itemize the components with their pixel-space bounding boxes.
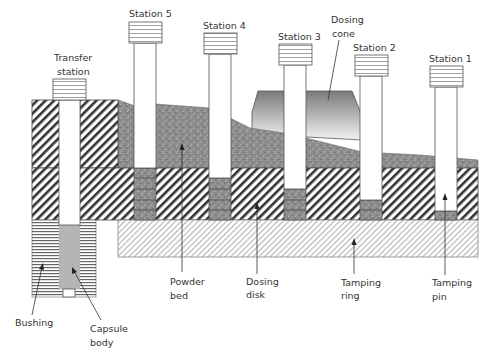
capsule-filling-diagram: Station 5 Station 4 Station 3 Station 2 …	[0, 0, 491, 361]
tamping-pin-label-line2: pin	[432, 291, 447, 302]
dosing-disk	[32, 168, 478, 220]
station-1-label: Station 1	[429, 53, 472, 64]
tamping-pin-station-1	[435, 87, 457, 211]
tamping-ring-label-line1: Tamping	[340, 277, 381, 288]
capsule-body-label-line1: Capsule	[90, 323, 128, 334]
transfer-station-label-line1: Transfer	[53, 52, 92, 63]
cap-station-1	[430, 66, 463, 87]
dosing-cone-label-line2: cone	[332, 28, 355, 39]
tamping-ring-label-line2: ring	[341, 290, 360, 301]
tamping-ring	[118, 220, 478, 257]
capsule-bottom-slot	[63, 289, 75, 297]
transfer-cap	[53, 79, 86, 100]
capsule-body-label-line2: body	[90, 337, 114, 348]
cap-station-3	[279, 44, 312, 65]
tamping-pin-label-line1: Tamping	[431, 277, 472, 288]
transfer-pin	[59, 100, 80, 225]
tamping-pin-station-4	[209, 54, 231, 178]
powder-bed-label-line2: bed	[170, 290, 188, 301]
dosing-cone-label-line1: Dosing	[331, 14, 364, 25]
dosing-disk-label-line1: Dosing	[246, 276, 279, 287]
tamping-pin-station-2	[360, 76, 382, 200]
station-3-label: Station 3	[278, 31, 321, 42]
capsule-body	[59, 225, 80, 289]
cap-station-2	[355, 55, 388, 76]
transfer-block-left	[32, 100, 60, 168]
dosing-disk-label-line2: disk	[246, 289, 266, 300]
bushing-label: Bushing	[15, 317, 53, 328]
plug-station-2	[360, 200, 382, 220]
tamping-pin-station-5	[134, 43, 156, 168]
powder-bed-label-line1: Powder	[170, 276, 205, 287]
tamping-pin-station-3	[284, 65, 306, 189]
transfer-station-label-line2: station	[57, 66, 90, 77]
plug-station-4	[209, 178, 231, 220]
transfer-block-right	[80, 100, 118, 168]
station-5-label: Station 5	[129, 8, 172, 19]
cap-station-4	[204, 33, 237, 54]
plug-station-1	[435, 211, 457, 220]
plug-station-3	[284, 189, 306, 220]
station-2-label: Station 2	[353, 42, 396, 53]
station-4-label: Station 4	[203, 20, 246, 31]
plug-station-5	[134, 168, 156, 220]
cap-station-5	[129, 22, 162, 43]
